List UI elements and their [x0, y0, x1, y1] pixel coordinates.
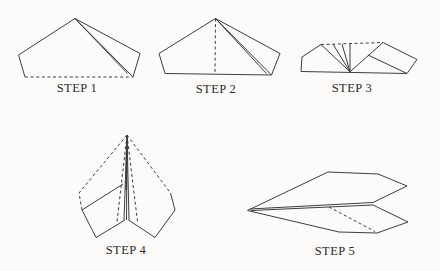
step-4-right-panel [129, 193, 176, 238]
step-3-crease-fan [321, 43, 383, 72]
step-3-outline [301, 43, 417, 74]
step-1-fold-lines [75, 19, 133, 77]
step-2-outline [159, 19, 280, 76]
step-1-figure [19, 19, 141, 78]
step-4-label: STEP 4 [106, 243, 147, 258]
step-3-figure [301, 43, 417, 74]
step-5-figure [248, 172, 409, 233]
step-3-dashed-top-edge [321, 43, 383, 45]
step-4-center-crease-dark [126, 136, 127, 190]
step-3-flap-edge [368, 55, 407, 74]
step-2-figure [159, 19, 280, 76]
step-5-label: STEP 5 [315, 244, 356, 259]
step-3-label: STEP 3 [332, 81, 373, 96]
step-4-left-panel [82, 184, 125, 238]
step-2-dashed-center-crease [215, 19, 216, 75]
paper-airplane-folding-figures [0, 0, 440, 271]
step-5-body-lines [250, 203, 373, 211]
step-2-label: STEP 2 [196, 82, 237, 97]
step-1-label: STEP 1 [57, 81, 98, 96]
step-2-fold-lines [216, 19, 272, 76]
step-5-dashed-fold [329, 207, 375, 232]
step-4-dashed-right-edge [127, 135, 171, 193]
step-4-figure [79, 135, 175, 238]
folding-instructions-diagram: STEP 1 STEP 2 STEP 3 STEP 4 STEP 5 [0, 0, 440, 271]
